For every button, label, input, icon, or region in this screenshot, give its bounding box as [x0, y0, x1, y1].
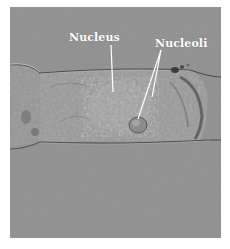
micrograph-photo: Nucleus Nucleoli — [10, 7, 221, 238]
main-cell — [35, 62, 215, 152]
nucleus-label: Nucleus — [69, 31, 120, 44]
nucleoli-label: Nucleoli — [155, 37, 207, 50]
